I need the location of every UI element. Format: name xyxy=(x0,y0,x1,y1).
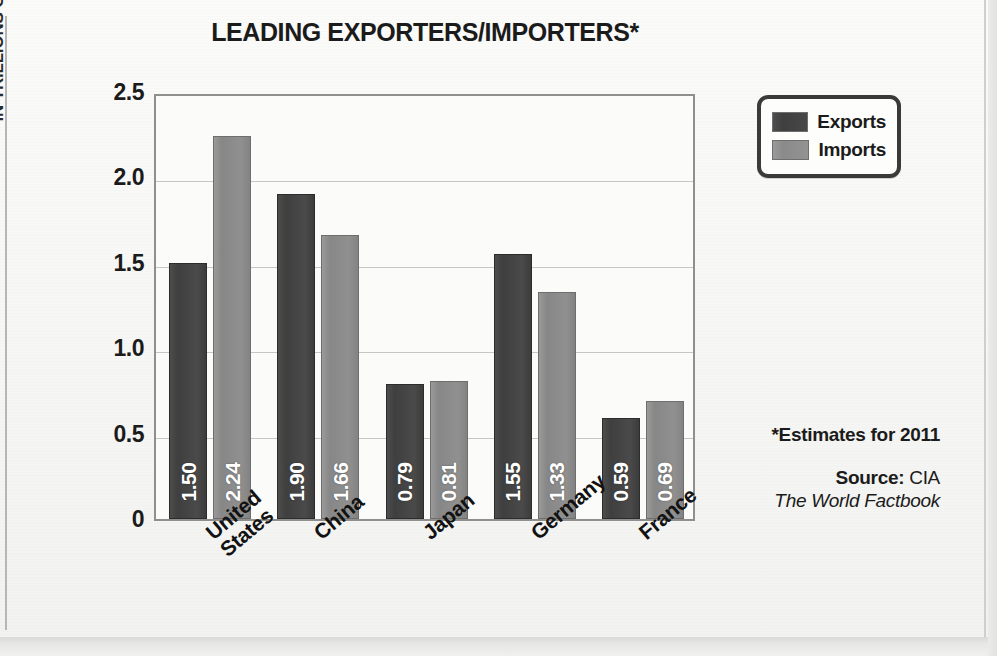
page-bottom-edge xyxy=(0,637,997,656)
plot-area: 1.502.241.901.660.790.811.551.330.590.69 xyxy=(154,94,695,521)
bars-layer: 1.502.241.901.660.790.811.551.330.590.69 xyxy=(156,96,693,519)
y-axis-tick-label: 0.5 xyxy=(74,421,144,448)
bar-value-label: 0.59 xyxy=(603,426,641,512)
bar-value-label: 1.50 xyxy=(170,426,208,512)
bar-imports-united-states[interactable]: 2.24 xyxy=(213,136,251,519)
source-publication: The World Factbook xyxy=(700,490,940,512)
legend-swatch-exports xyxy=(772,112,808,132)
bar-group: 0.790.81 xyxy=(386,96,468,519)
bar-group: 1.901.66 xyxy=(277,96,359,519)
footnote-estimates: *Estimates for 2011 xyxy=(700,424,940,446)
bar-exports-japan[interactable]: 0.79 xyxy=(386,384,424,519)
source-label: Source: xyxy=(836,467,905,488)
y-axis-tick-labels: 2.52.01.51.00.50 xyxy=(74,94,144,521)
chart-notes: *Estimates for 2011 Source: CIA The Worl… xyxy=(700,424,940,512)
y-axis-tick-label: 0 xyxy=(74,506,144,533)
x-axis-category-labels: UnitedStatesChinaJapanGermanyFrance xyxy=(154,527,695,637)
y-axis-tick-label: 1.5 xyxy=(74,250,144,277)
bar-value-label: 1.90 xyxy=(278,426,316,512)
bar-exports-united-states[interactable]: 1.50 xyxy=(169,263,207,519)
source-value: CIA xyxy=(904,467,940,488)
page-right-edge xyxy=(988,0,997,656)
legend-item-exports[interactable]: Exports xyxy=(772,108,886,136)
bar-exports-germany[interactable]: 1.55 xyxy=(494,254,532,519)
bar-imports-germany[interactable]: 1.33 xyxy=(538,292,576,519)
bar-group: 1.502.24 xyxy=(169,96,251,519)
legend-swatch-imports xyxy=(772,140,809,160)
bar-exports-china[interactable]: 1.90 xyxy=(277,194,315,519)
chart-page: LEADING EXPORTERS/IMPORTERS* IN TRILLION… xyxy=(0,0,997,656)
bar-group: 0.590.69 xyxy=(602,96,684,519)
bar-imports-china[interactable]: 1.66 xyxy=(321,235,359,519)
bar-value-label: 0.79 xyxy=(387,426,425,512)
source-line: Source: CIA xyxy=(700,467,940,489)
legend-item-imports[interactable]: Imports xyxy=(772,136,886,164)
bar-group: 1.551.33 xyxy=(494,96,576,519)
y-axis-title: IN TRILLIONS OF U.S. DOLLARS xyxy=(0,0,8,152)
y-axis-tick-label: 1.0 xyxy=(74,335,144,362)
bar-exports-france[interactable]: 0.59 xyxy=(602,418,640,519)
y-axis-tick-label: 2.0 xyxy=(74,164,144,191)
bar-value-label: 1.55 xyxy=(495,426,533,512)
legend-label: Imports xyxy=(818,139,886,161)
y-axis-tick-label: 2.5 xyxy=(74,79,144,106)
legend-label: Exports xyxy=(817,111,886,133)
chart-legend: ExportsImports xyxy=(757,95,901,178)
chart-title: LEADING EXPORTERS/IMPORTERS* xyxy=(154,18,696,47)
right-margin-rule xyxy=(984,0,986,637)
